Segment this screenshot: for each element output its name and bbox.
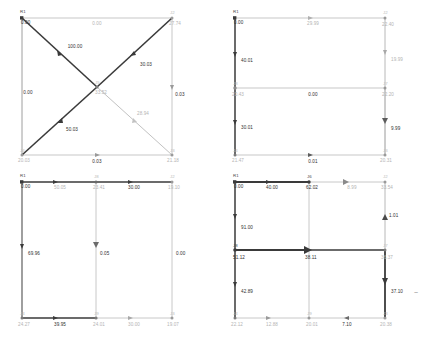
- network-diagram-grid: R1 J2 J5 J4 J3 0.00 27.74 33.52 20.03 21…: [0, 0, 426, 337]
- node-id-R1: R1: [20, 174, 26, 178]
- panel-bottom-right-network: R1 J6 J2 J8 J7 J4 J9 J3 0.00 62.02 33.54…: [213, 168, 426, 337]
- node-value-J6: 62.02: [306, 186, 318, 191]
- node-value-J4: 21.47: [232, 159, 244, 164]
- node-id-J4: J4: [233, 312, 238, 316]
- panel-top-left-network: R1 J2 J5 J4 J3 0.00 27.74 33.52 20.03 21…: [0, 0, 213, 168]
- link-value-J7-J3: 9.99: [391, 127, 400, 132]
- link-value-R1-J8: 91.00: [241, 226, 253, 231]
- link-value-J9-J3: 7.10: [342, 323, 351, 328]
- node-value-J7: 36.37: [381, 256, 393, 261]
- node-id-J2: J2: [170, 175, 175, 179]
- panel-4-canvas: [213, 168, 426, 337]
- link-value-J7-J3: 37.10: [391, 290, 403, 295]
- link-value-J2-J3: 0.00: [176, 252, 185, 257]
- node-value-R1: 0.00: [21, 185, 30, 190]
- node-value-R1: 0.00: [234, 185, 243, 190]
- link-value-J6-J2: 8.99: [347, 186, 356, 191]
- node-id-J8: J8: [233, 244, 238, 248]
- node-id-J4: J4: [20, 312, 25, 316]
- link-value-R1-J4: 69.96: [28, 252, 40, 257]
- link-value-J4-J5: 50.03: [66, 128, 78, 133]
- node-value-J8: 23.41: [93, 186, 105, 191]
- node-value-J7: 22.20: [382, 93, 394, 98]
- node-id-J7: J7: [383, 244, 388, 248]
- link-value-J8-J2: 30.00: [128, 186, 140, 191]
- link-value-R1-J5: 100.00: [68, 45, 83, 50]
- link-value-J9-J3: 30.00: [128, 323, 140, 328]
- node-id-J4: J4: [20, 149, 25, 153]
- node-value-J4: 20.03: [18, 159, 30, 164]
- node-id-J4: J4: [233, 149, 238, 153]
- node-id-J2: J2: [170, 11, 175, 15]
- node-value-J8: 51.12: [233, 256, 245, 261]
- link-value-R1-J6: 40.00: [266, 186, 278, 191]
- node-id-J8: J8: [94, 175, 99, 179]
- node-id-J3: J3: [383, 149, 388, 153]
- tilde-annotation: ~: [414, 289, 418, 296]
- link-value-J2-J7: 19.99: [391, 58, 403, 63]
- node-value-J8: 20.43: [232, 93, 244, 98]
- node-value-J3: 20.38: [380, 323, 392, 328]
- panel-bottom-left-network: R1 J8 J2 J4 J9 J3 0.00 23.41 19.10 24.27…: [0, 168, 213, 337]
- link-value-J5-J3: 28.94: [137, 112, 149, 117]
- link-value-J2-J3: 0.03: [175, 93, 184, 98]
- node-value-R1: 0.00: [21, 21, 30, 26]
- node-id-R1: R1: [233, 10, 239, 14]
- link-value-J8-J9: 0.05: [100, 252, 109, 257]
- node-id-J2: J2: [383, 11, 388, 15]
- node-id-J8: J8: [233, 82, 238, 86]
- node-value-J9: 24.01: [93, 323, 105, 328]
- node-value-R1: 0.00: [234, 21, 243, 26]
- link-value-J2-J7: 1.01: [389, 214, 398, 219]
- node-id-R1: R1: [233, 174, 239, 178]
- node-value-J2: 19.10: [168, 186, 180, 191]
- link-value-J8-J4: 30.01: [241, 126, 253, 131]
- node-value-J4: 22.12: [231, 323, 243, 328]
- node-value-J2: 27.74: [169, 22, 181, 27]
- link-value-J5-J2: 30.03: [140, 63, 152, 68]
- link-value-J4-J3: 0.01: [308, 160, 317, 165]
- node-id-J6: J6: [307, 175, 312, 179]
- node-value-J5: 33.52: [95, 91, 107, 96]
- link-value-J8-J7: 38.11: [305, 256, 317, 261]
- link-value-R1-J8: 50.05: [54, 186, 66, 191]
- node-id-J5: J5: [95, 81, 100, 85]
- panel-2-canvas: [213, 0, 426, 168]
- panel-1-canvas: [0, 0, 213, 168]
- node-id-J9: J9: [307, 312, 312, 316]
- node-id-R1: R1: [20, 10, 26, 14]
- node-id-J3: J3: [170, 312, 175, 316]
- node-value-J3: 20.31: [380, 159, 392, 164]
- node-value-J2: 22.40: [382, 23, 394, 28]
- node-value-J3: 19.07: [167, 323, 179, 328]
- node-value-J2: 33.54: [381, 186, 393, 191]
- link-value-J8-J4: 42.89: [241, 290, 253, 295]
- node-value-J3: 21.18: [167, 159, 179, 164]
- node-value-J9: 20.01: [306, 323, 318, 328]
- link-value-J4-J9: 39.95: [54, 323, 66, 328]
- node-id-J3: J3: [170, 149, 175, 153]
- link-value-J4-J9: 12.88: [266, 323, 278, 328]
- link-value-R1-J8: 40.01: [241, 59, 253, 64]
- node-id-J2: J2: [383, 175, 388, 179]
- link-value-R1-J4: 0.00: [23, 91, 32, 96]
- link-value-R1-J2: 29.99: [307, 22, 319, 27]
- panel-top-right-network: R1 J2 J8 J7 J4 J3 0.00 22.40 20.43 22.20…: [213, 0, 426, 168]
- node-id-J7: J7: [383, 82, 388, 86]
- link-value-J8-J7: 0.00: [308, 93, 317, 98]
- link-value-J4-J3: 0.03: [92, 160, 101, 165]
- link-value-R1-J2: 0.00: [92, 22, 101, 27]
- node-id-J9: J9: [94, 312, 99, 316]
- node-id-J3: J3: [383, 312, 388, 316]
- node-value-J4: 24.27: [18, 323, 30, 328]
